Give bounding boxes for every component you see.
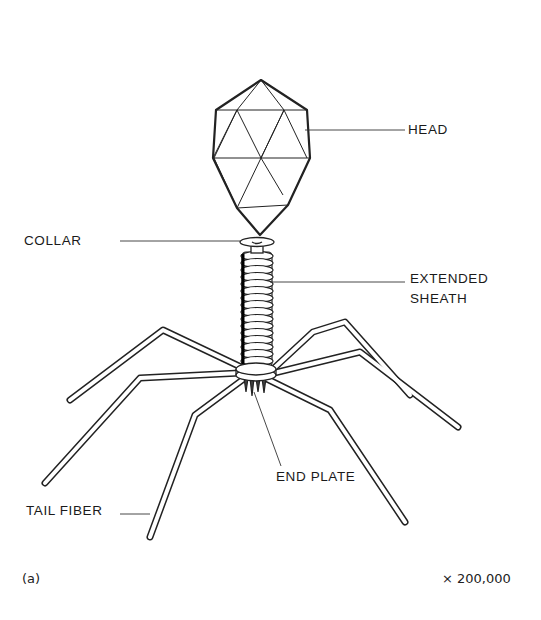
collar	[240, 238, 274, 254]
label-tail-fiber: TAIL FIBER	[26, 503, 103, 519]
bacteriophage-diagram	[0, 0, 541, 620]
end-plate	[236, 363, 276, 381]
label-extended-sheath: EXTENDED SHEATH	[410, 271, 488, 307]
label-head: HEAD	[408, 122, 448, 138]
label-sheath-line1: EXTENDED	[410, 271, 488, 287]
label-collar: COLLAR	[24, 233, 82, 249]
extended-sheath	[241, 252, 273, 368]
head	[213, 80, 310, 235]
label-sheath-line2: SHEATH	[410, 291, 488, 307]
magnification-label: × 200,000	[442, 571, 511, 586]
label-end-plate: END PLATE	[276, 469, 355, 485]
panel-label: (a)	[22, 571, 40, 586]
